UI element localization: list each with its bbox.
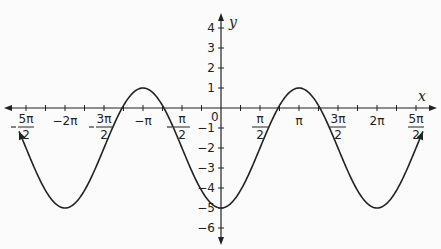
y-tick-label: 4: [207, 21, 215, 35]
y-tick-label: −5: [197, 201, 215, 215]
y-tick-label: 2: [207, 61, 215, 75]
tick-labels: 5π2−2π3π2−ππ2π2π3π22π5π24321−1−2−3−4−5−6: [11, 21, 424, 235]
x-axis-left-arrow: [4, 105, 12, 111]
fraction-numerator: 5π: [19, 112, 34, 126]
sine-curve-plot: 5π2−2π3π2−ππ2π2π3π22π5π24321−1−2−3−4−5−6…: [0, 0, 441, 249]
x-axis-right-arrow: [429, 105, 437, 111]
y-axis-top-arrow: [218, 13, 224, 21]
fraction-numerator: π: [256, 112, 263, 126]
x-tick-fraction-label: 3π2: [330, 112, 346, 142]
fraction-numerator: 3π: [97, 112, 112, 126]
x-tick-fraction-label: π2: [252, 112, 268, 142]
y-tick-label: −6: [197, 221, 215, 235]
chart-container: 5π2−2π3π2−ππ2π2π3π22π5π24321−1−2−3−4−5−6…: [0, 0, 441, 249]
y-tick-label: 3: [207, 41, 215, 55]
x-tick-label: 2π: [370, 114, 385, 128]
x-axis-label: x: [418, 88, 426, 104]
x-tick-label: π: [295, 114, 302, 128]
y-tick-label: 1: [207, 81, 215, 95]
fraction-numerator: 5π: [409, 112, 424, 126]
x-tick-fraction-label: π2: [167, 112, 190, 142]
y-tick-label: −3: [197, 161, 215, 175]
origin-label: 0: [211, 110, 219, 124]
fraction-numerator: π: [178, 112, 185, 126]
fraction-numerator: 3π: [331, 112, 346, 126]
y-tick-label: −2: [197, 141, 215, 155]
y-axis-label: y: [228, 14, 238, 30]
y-axis-bottom-arrow: [218, 237, 224, 245]
x-tick-label: −π: [134, 114, 151, 128]
x-tick-label: −2π: [53, 114, 78, 128]
